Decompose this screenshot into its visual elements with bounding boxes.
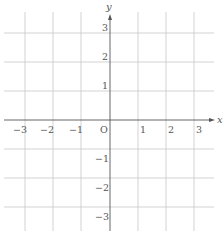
y-tick-neg3: −3 bbox=[95, 211, 109, 222]
coordinate-plane: x y −3 −2 −1 O 1 2 3 3 2 1 −1 −2 −3 bbox=[0, 0, 223, 236]
y-tick-3: 3 bbox=[102, 22, 108, 33]
y-tick-neg2: −2 bbox=[95, 182, 109, 193]
y-tick-2: 2 bbox=[102, 51, 108, 62]
origin-label: O bbox=[100, 124, 108, 135]
x-tick-3: 3 bbox=[196, 124, 202, 135]
x-tick-1: 1 bbox=[140, 124, 146, 135]
x-tick-neg1: −1 bbox=[69, 124, 83, 135]
y-axis-label: y bbox=[105, 1, 112, 12]
x-tick-2: 2 bbox=[168, 124, 174, 135]
y-tick-neg1: −1 bbox=[95, 153, 109, 164]
x-tick-neg2: −2 bbox=[40, 124, 54, 135]
x-axis-label: x bbox=[217, 114, 223, 125]
y-axis-arrow-icon bbox=[108, 14, 112, 20]
x-axis-arrow-icon bbox=[209, 118, 215, 122]
x-tick-neg3: −3 bbox=[13, 124, 27, 135]
vertical-grid-lines bbox=[25, 12, 194, 231]
y-tick-1: 1 bbox=[102, 80, 108, 91]
